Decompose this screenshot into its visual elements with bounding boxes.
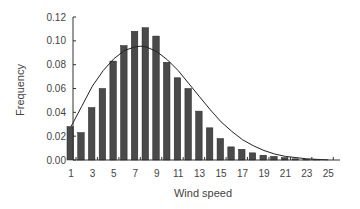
y-tick-label: 0.10 bbox=[47, 35, 67, 46]
frequency-bar bbox=[206, 128, 213, 160]
x-axis-title: Wind speed bbox=[174, 187, 232, 199]
frequency-bar bbox=[110, 61, 117, 160]
frequency-bar bbox=[174, 78, 181, 160]
frequency-bar bbox=[239, 149, 246, 160]
x-tick-label: 15 bbox=[216, 168, 228, 179]
x-tick-label: 13 bbox=[194, 168, 206, 179]
x-tick-label: 21 bbox=[280, 168, 292, 179]
frequency-bar bbox=[163, 62, 170, 160]
y-tick-label: 0.06 bbox=[47, 83, 67, 94]
frequency-bar bbox=[88, 108, 95, 160]
frequency-bar bbox=[99, 89, 106, 161]
y-tick-label: 0.00 bbox=[47, 155, 67, 166]
x-tick-label: 1 bbox=[68, 168, 74, 179]
x-tick-label: 23 bbox=[301, 168, 313, 179]
x-tick-label: 7 bbox=[133, 168, 139, 179]
x-tick-label: 11 bbox=[173, 168, 184, 179]
x-tick-label: 17 bbox=[237, 168, 249, 179]
frequency-bar bbox=[131, 31, 138, 160]
frequency-bars bbox=[67, 28, 320, 160]
y-tick-label: 0.02 bbox=[47, 131, 67, 142]
frequency-bar bbox=[78, 133, 85, 160]
x-tick-label: 25 bbox=[323, 168, 335, 179]
frequency-bar bbox=[185, 89, 192, 161]
x-tick-label: 19 bbox=[258, 168, 270, 179]
frequency-bar bbox=[249, 153, 256, 160]
wind-speed-chart: 0.000.020.040.060.080.100.12 13579111315… bbox=[0, 0, 360, 209]
frequency-bar bbox=[271, 156, 278, 160]
frequency-bar bbox=[153, 36, 160, 160]
frequency-bar bbox=[260, 155, 267, 160]
frequency-bar bbox=[217, 139, 224, 160]
x-tick-label: 5 bbox=[111, 168, 117, 179]
frequency-bar bbox=[196, 111, 203, 160]
y-tick-label: 0.12 bbox=[47, 12, 67, 23]
y-axis-title: Frequency bbox=[14, 64, 26, 116]
x-tick-label: 9 bbox=[154, 168, 160, 179]
y-tick-label: 0.04 bbox=[47, 107, 67, 118]
y-tick-label: 0.08 bbox=[47, 59, 67, 70]
frequency-bar bbox=[121, 46, 128, 160]
x-tick-label: 3 bbox=[90, 168, 96, 179]
frequency-bar bbox=[228, 147, 235, 160]
